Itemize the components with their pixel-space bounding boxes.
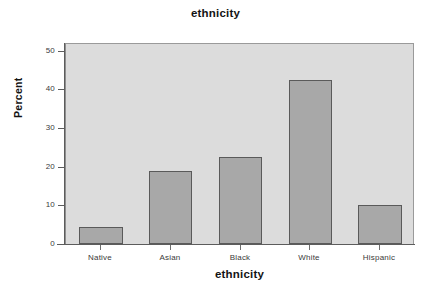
y-tick-5 bbox=[58, 51, 65, 52]
y-tick-1 bbox=[58, 205, 65, 206]
y-tick-label-0: 0 bbox=[50, 239, 55, 248]
y-tick-label-3: 30 bbox=[46, 123, 55, 132]
x-tick-0 bbox=[100, 245, 101, 250]
x-tick-3 bbox=[309, 245, 310, 250]
y-tick-3 bbox=[58, 128, 65, 129]
y-tick-0 bbox=[58, 244, 65, 245]
x-tick-label-native: Native bbox=[65, 253, 135, 262]
chart-title: ethnicity bbox=[0, 7, 431, 19]
x-tick-2 bbox=[240, 245, 241, 250]
bar-black[interactable] bbox=[219, 157, 262, 244]
y-tick-label-1: 10 bbox=[46, 200, 55, 209]
y-tick-label-2: 20 bbox=[46, 162, 55, 171]
y-tick-2 bbox=[58, 167, 65, 168]
x-tick-4 bbox=[379, 245, 380, 250]
bar-asian[interactable] bbox=[149, 171, 192, 244]
x-tick-label-black: Black bbox=[205, 253, 275, 262]
plot-area bbox=[65, 43, 414, 244]
y-tick-label-4: 40 bbox=[46, 84, 55, 93]
x-axis-title: ethnicity bbox=[65, 268, 414, 280]
y-axis-title: Percent bbox=[12, 77, 24, 118]
bar-hispanic[interactable] bbox=[358, 205, 401, 244]
bar-chart: ethnicity 0 10 20 30 40 50 Percent Nativ… bbox=[0, 0, 431, 302]
x-tick-label-asian: Asian bbox=[135, 253, 205, 262]
bar-white[interactable] bbox=[289, 80, 332, 244]
x-tick-1 bbox=[170, 245, 171, 250]
x-tick-label-hispanic: Hispanic bbox=[344, 253, 414, 262]
x-axis-line bbox=[57, 244, 415, 245]
y-tick-label-5: 50 bbox=[46, 46, 55, 55]
bars-layer bbox=[66, 44, 413, 244]
x-tick-label-white: White bbox=[274, 253, 344, 262]
y-tick-4 bbox=[58, 89, 65, 90]
y-axis-line bbox=[64, 43, 65, 245]
bar-native[interactable] bbox=[79, 227, 122, 244]
